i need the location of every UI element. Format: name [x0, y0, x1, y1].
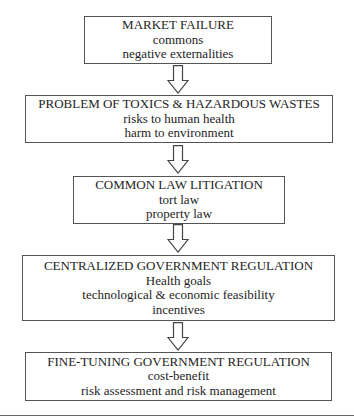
box-item: property law — [146, 207, 212, 222]
box-item: negative externalities — [123, 47, 234, 62]
box-title: COMMON LAW LITIGATION — [95, 178, 263, 193]
box-item: cost-benefit — [148, 369, 209, 384]
box-fine-tuning-regulation: FINE-TUNING GOVERNMENT REGULATION cost-b… — [25, 352, 332, 401]
down-arrow-icon — [167, 224, 189, 253]
down-arrow-icon — [167, 322, 189, 351]
box-item: Health goals — [146, 274, 211, 289]
down-arrow-icon — [167, 65, 189, 94]
box-common-law: COMMON LAW LITIGATION tort law property … — [73, 176, 285, 224]
box-centralized-regulation: CENTRALIZED GOVERNMENT REGULATION Health… — [22, 255, 335, 321]
box-item: risks to human health — [123, 112, 235, 127]
box-title: FINE-TUNING GOVERNMENT REGULATION — [47, 355, 310, 370]
bottom-divider — [0, 415, 354, 416]
box-item: risk assessment and risk management — [81, 384, 276, 399]
box-item: tort law — [159, 193, 199, 208]
box-item: harm to environment — [124, 126, 233, 141]
box-item: incentives — [152, 303, 205, 318]
box-title: MARKET FAILURE — [122, 18, 234, 33]
box-toxics-problem: PROBLEM OF TOXICS & HAZARDOUS WASTES ris… — [25, 95, 333, 143]
down-arrow-icon — [167, 145, 189, 174]
box-market-failure: MARKET FAILURE commons negative external… — [84, 16, 272, 64]
box-item: technological & economic feasibility — [82, 288, 274, 303]
box-title: CENTRALIZED GOVERNMENT REGULATION — [44, 259, 313, 274]
box-title: PROBLEM OF TOXICS & HAZARDOUS WASTES — [38, 97, 319, 112]
box-item: commons — [153, 33, 204, 48]
